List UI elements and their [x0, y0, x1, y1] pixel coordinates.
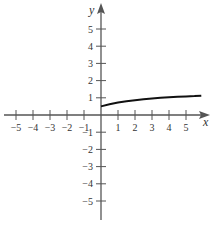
y-tick-label: −2	[82, 144, 93, 155]
x-tick-label: 3	[150, 122, 155, 133]
y-tick-label: 4	[88, 41, 93, 52]
y-tick-label: −4	[82, 178, 93, 189]
axes	[4, 3, 210, 220]
x-tick-label: −4	[28, 122, 39, 133]
y-tick-label: 3	[88, 58, 93, 69]
x-tick-label: 2	[133, 122, 138, 133]
x-axis-label: x	[202, 115, 209, 129]
y-tick-label: 5	[88, 24, 93, 35]
y-tick-label: −5	[82, 196, 93, 207]
function-curve	[101, 96, 201, 107]
x-tick-label: −2	[62, 122, 73, 133]
x-tick-label: −3	[45, 122, 56, 133]
y-axis-label: y	[88, 3, 95, 17]
x-tick-label: 1	[116, 122, 121, 133]
coordinate-plane: −5−4−3−2−112345−5−4−3−2−112345 x y	[0, 0, 212, 229]
x-tick-label: −5	[11, 122, 22, 133]
x-tick-label: 5	[184, 122, 189, 133]
y-tick-label: 2	[88, 75, 93, 86]
y-tick-label: −3	[82, 161, 93, 172]
y-tick-label: 1	[88, 92, 93, 103]
y-tick-label: −1	[82, 127, 93, 138]
x-tick-label: 4	[167, 122, 172, 133]
